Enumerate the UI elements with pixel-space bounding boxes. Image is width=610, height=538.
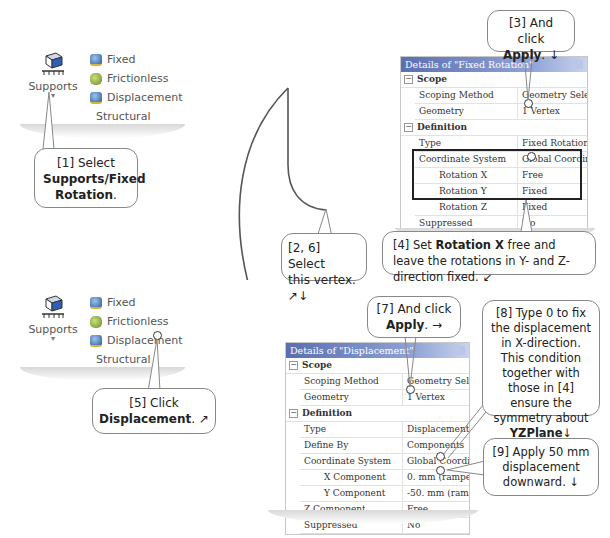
group-label: Scope — [302, 358, 332, 373]
row-label: Rotation Z — [415, 200, 518, 215]
callout-text: this vertex. ↗↓ — [288, 272, 360, 304]
callout-text: [3] And click — [494, 15, 568, 47]
displacement-icon — [90, 335, 102, 347]
collapse-icon[interactable]: − — [404, 75, 413, 84]
displacement-icon — [90, 92, 102, 104]
y-component-marker — [436, 466, 445, 475]
row-value[interactable]: -50. mm (ramped) — [403, 486, 469, 501]
group-scope[interactable]: − Scope — [401, 72, 587, 88]
supports-icon — [39, 293, 67, 321]
ribbon-structural-bottom: Supports ▾ Fixed Frictionless Displaceme… — [22, 285, 192, 380]
supports-icon — [39, 50, 67, 78]
row-y-component[interactable]: Y Component -50. mm (ramped) — [300, 486, 469, 502]
callout-7-pointer — [402, 335, 422, 389]
ribbon-item-displacement[interactable]: Displacement — [90, 331, 183, 350]
row-label: Scoping Method — [300, 374, 403, 389]
group-label: Scope — [417, 72, 447, 87]
ribbon-item-label: Frictionless — [107, 315, 169, 328]
callout-suffix: . ↗ — [191, 412, 209, 426]
callout-8-pointer — [438, 400, 488, 460]
callout-bold: Rotation X — [436, 238, 504, 252]
callout-bold: Supports/Fixed Rotation — [43, 172, 146, 202]
frictionless-support-icon — [90, 73, 102, 85]
row-label: Type — [300, 422, 403, 437]
callout-step-4: [4] Set Rotation X free and leave the ro… — [382, 231, 596, 275]
fixed-support-icon — [90, 297, 102, 309]
fixed-support-icon — [90, 54, 102, 66]
rotation-highlight-box — [412, 149, 582, 200]
callout-text: [9] Apply 50 mm displacement downward. ↓ — [493, 445, 590, 489]
callout-step-2-6: [2, 6] Select this vertex. ↗↓ — [281, 233, 367, 281]
ribbon-item-label: Fixed — [107, 53, 136, 66]
chevron-down-icon[interactable]: ▾ — [26, 336, 80, 342]
row-label: Define By — [300, 438, 403, 453]
group-definition[interactable]: − Definition — [401, 120, 587, 136]
ribbon-item-label: Fixed — [107, 296, 136, 309]
callout-suffix: . → — [424, 318, 442, 332]
supports-button[interactable]: Supports ▾ — [26, 293, 80, 342]
callout-text: [7] And click — [374, 301, 454, 317]
row-label: Geometry — [300, 390, 403, 405]
ribbon-item-label: Frictionless — [107, 72, 169, 85]
ribbon-group-label: Structural — [96, 353, 150, 366]
callout-step-9: [9] Apply 50 mm displacement downward. ↓ — [483, 438, 599, 496]
collapse-icon[interactable]: − — [289, 361, 298, 370]
callout-1-pointer — [40, 90, 70, 150]
callout-bold: Apply — [386, 318, 424, 332]
ribbon-item-frictionless[interactable]: Frictionless — [90, 312, 183, 331]
callout-step-7: [7] And click Apply. → — [367, 296, 461, 338]
row-label: Scoping Method — [415, 88, 518, 103]
support-type-list: Fixed Frictionless Displacement — [90, 293, 183, 350]
ribbon-item-frictionless[interactable]: Frictionless — [90, 69, 183, 88]
collapse-icon[interactable]: − — [404, 123, 413, 132]
pin-icon[interactable] — [575, 60, 583, 69]
callout-text: [1] Select — [43, 155, 129, 171]
callout-text: [5] Click — [99, 395, 209, 411]
callout-bold: Displacement — [99, 412, 191, 426]
row-label: Y Component — [300, 486, 403, 501]
callout-5-pointer — [145, 338, 165, 392]
frictionless-support-icon — [90, 316, 102, 328]
group-scope[interactable]: − Scope — [286, 358, 469, 374]
ribbon-item-fixed[interactable]: Fixed — [90, 50, 183, 69]
row-geometry[interactable]: Geometry 1 Vertex — [415, 104, 587, 120]
row-scoping-method[interactable]: Scoping Method Geometry Selection — [300, 374, 469, 390]
panel-title: Details of "Displacement" — [286, 343, 469, 358]
ribbon-item-fixed[interactable]: Fixed — [90, 293, 183, 312]
callout-suffix: . ↓ — [541, 48, 559, 62]
callout-text: [8] Type 0 to fix the displacement in X-… — [491, 306, 591, 425]
panel-title-text: Details of "Displacement" — [290, 345, 414, 356]
row-rotation-z[interactable]: Rotation Z Fixed — [415, 200, 587, 216]
callout-bold: Apply — [503, 48, 541, 62]
callout-9-pointer — [445, 455, 485, 485]
callout-step-5: [5] Click Displacement. ↗ — [92, 388, 216, 434]
group-label: Definition — [417, 120, 467, 135]
ribbon-item-displacement[interactable]: Displacement — [90, 88, 183, 107]
ribbon-group-label: Structural — [96, 110, 150, 123]
row-scoping-method[interactable]: Scoping Method Geometry Selection — [415, 88, 587, 104]
details-panel-fixed-rotation: Details of "Fixed Rotation" − Scope Scop… — [400, 56, 588, 233]
rotation-x-marker — [527, 152, 536, 161]
ribbon-item-label: Displacement — [107, 91, 183, 104]
callout-suffix: . — [113, 188, 117, 202]
callout-step-3: [3] And click Apply. ↓ — [487, 10, 575, 52]
callout-text: [2, 6] Select — [288, 240, 360, 272]
callout-step-1: [1] Select Supports/Fixed Rotation. — [34, 148, 138, 208]
pin-icon[interactable] — [457, 346, 465, 355]
support-type-list: Fixed Frictionless Displacement — [90, 50, 183, 107]
row-label: X Component — [300, 470, 403, 485]
row-label: Geometry — [415, 104, 518, 119]
callout-step-8: [8] Type 0 to fix the displacement in X-… — [482, 300, 600, 416]
collapse-icon[interactable]: − — [289, 409, 298, 418]
row-label: Coordinate System — [300, 454, 403, 469]
group-label: Definition — [302, 406, 352, 421]
callout-4-pointer — [518, 199, 538, 233]
callout-text: [4] Set — [393, 238, 436, 252]
